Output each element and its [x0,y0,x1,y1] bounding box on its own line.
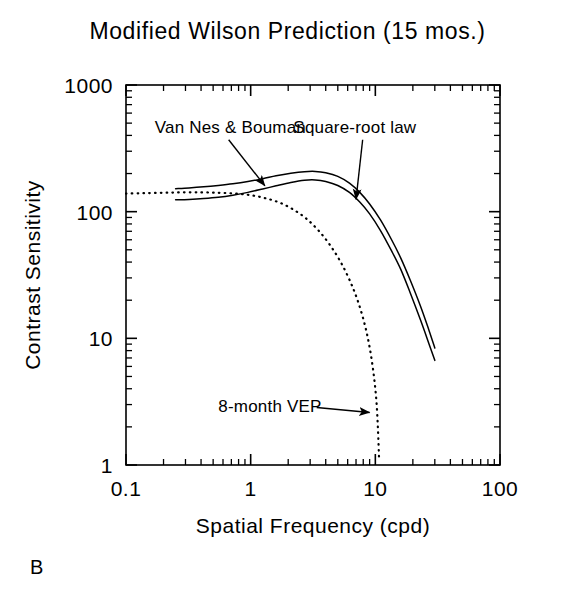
annotation-label: Square-root law [293,118,417,137]
x-axis-tick-label: 1 [245,477,257,500]
series-line [176,180,435,361]
x-axis-title: Spatial Frequency (cpd) [196,514,430,537]
annotation-arrow [356,140,363,200]
y-axis-tick-label: 1000 [64,74,113,97]
annotation-arrow [229,140,265,186]
panel-label: B [30,556,43,579]
annotation-arrow [317,407,370,412]
figure-panel: Modified Wilson Prediction (15 mos.) 0.1… [0,0,575,607]
y-axis-tick-label: 1 [101,454,113,477]
chart-plot-area: 0.11101001101001000Spatial Frequency (cp… [0,0,575,607]
x-axis-tick-label: 0.1 [111,477,142,500]
x-axis-tick-label: 10 [363,477,387,500]
x-axis-tick-label: 100 [482,477,519,500]
y-axis-tick-label: 10 [89,327,113,350]
y-axis-title: Contrast Sensitivity [21,180,44,370]
annotation-label: 8-month VEP [218,397,321,416]
y-axis-tick-label: 100 [76,201,113,224]
series-line [126,192,379,457]
annotation-label: Van Nes & Bouman [155,118,306,137]
